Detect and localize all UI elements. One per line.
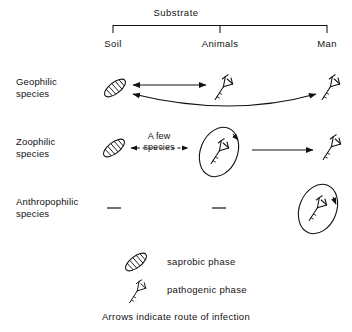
column-header-animals: Animals (185, 38, 255, 49)
pathogenic-phase-icon (211, 139, 228, 164)
legend-label-pathogenic: pathogenic phase (167, 284, 247, 295)
row-label-anthropophilic: Anthropophilic species (16, 196, 106, 219)
page-title: Substrate (0, 7, 352, 18)
row-anthropophilic-graphics (107, 178, 345, 239)
pathogenic-phase-icon (215, 75, 232, 100)
row-label-geophilic: Geophilic species (16, 76, 106, 99)
a-few-species-line-1: A few (148, 131, 171, 141)
pathogenic-phase-icon (309, 196, 326, 221)
a-few-species-label: A few species (128, 131, 190, 153)
diagram-vector-layer (0, 0, 352, 332)
saprobic-phase-icon (123, 250, 150, 274)
legend-graphics (123, 250, 150, 303)
pathogenic-phase-icon (130, 280, 146, 303)
column-header-soil: Soil (83, 38, 143, 49)
figure-caption: Arrows indicate route of infection (0, 311, 352, 322)
pathogenic-phase-icon (322, 75, 339, 100)
dermatophyte-ecology-diagram: Substrate Soil Animals Man Geophilic spe… (0, 0, 352, 332)
column-header-man: Man (297, 38, 352, 49)
pathogenic-phase-icon (323, 135, 340, 160)
human-reservoir-cycle (291, 178, 344, 239)
row-geophilic-graphics (102, 75, 340, 106)
legend-label-saprobic: saprobic phase (167, 256, 236, 267)
substrate-bracket (113, 26, 327, 34)
a-few-species-line-2: species (143, 142, 174, 152)
row-label-zoophilic: Zoophilic species (16, 136, 106, 159)
arrow-soil-man-curved (133, 94, 316, 106)
